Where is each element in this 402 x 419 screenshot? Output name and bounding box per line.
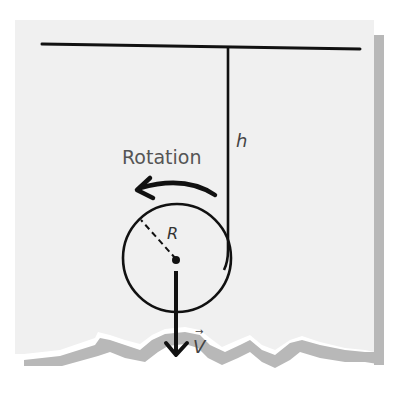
height-label: h [236, 130, 247, 151]
velocity-label: V [193, 336, 207, 357]
center-dot [172, 256, 180, 264]
rotation-label: Rotation [122, 146, 201, 168]
diagram-canvas: h Rotation R V → [0, 0, 402, 419]
radius-label: R [167, 224, 178, 243]
vector-arrow-glyph: → [195, 326, 203, 337]
